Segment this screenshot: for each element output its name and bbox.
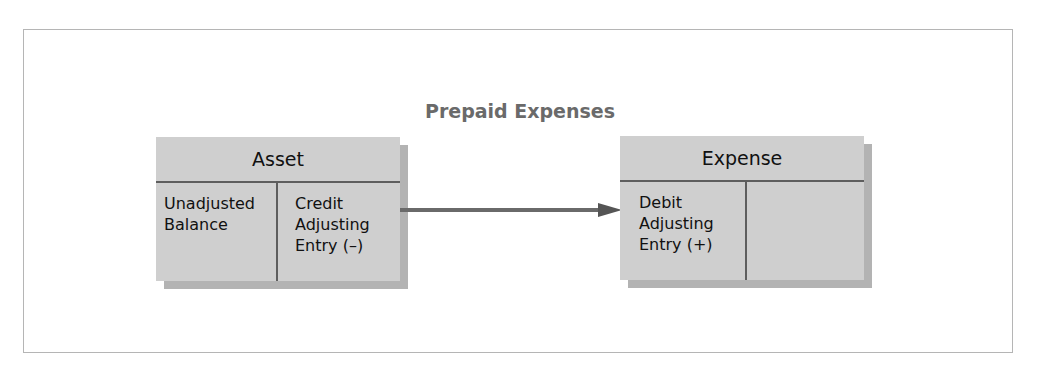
expense-column-divider: [745, 180, 747, 280]
asset-credit-side: Credit Adjusting Entry (–): [295, 193, 370, 256]
asset-debit-line: Balance: [164, 214, 255, 235]
expense-debit-side: Debit Adjusting Entry (+): [639, 192, 714, 255]
expense-debit-line: Adjusting: [639, 213, 714, 234]
asset-t-account: Asset Unadjusted Balance Credit Adjustin…: [156, 137, 400, 281]
asset-box: Asset Unadjusted Balance Credit Adjustin…: [156, 137, 400, 281]
asset-debit-line: Unadjusted: [164, 193, 255, 214]
expense-box: Expense Debit Adjusting Entry (+): [620, 136, 864, 280]
expense-debit-line: Debit: [639, 192, 714, 213]
asset-header-divider: [156, 181, 400, 183]
expense-header-divider: [620, 180, 864, 182]
asset-account-title: Asset: [156, 137, 400, 181]
asset-credit-line: Adjusting: [295, 214, 370, 235]
asset-debit-side: Unadjusted Balance: [164, 193, 255, 235]
expense-debit-line: Entry (+): [639, 234, 714, 255]
asset-credit-line: Credit: [295, 193, 370, 214]
asset-credit-line: Entry (–): [295, 235, 370, 256]
expense-account-title: Expense: [620, 136, 864, 180]
asset-column-divider: [276, 181, 278, 281]
arrow-right-icon: [400, 203, 622, 217]
diagram-title: Prepaid Expenses: [0, 100, 1040, 122]
expense-t-account: Expense Debit Adjusting Entry (+): [620, 136, 864, 280]
